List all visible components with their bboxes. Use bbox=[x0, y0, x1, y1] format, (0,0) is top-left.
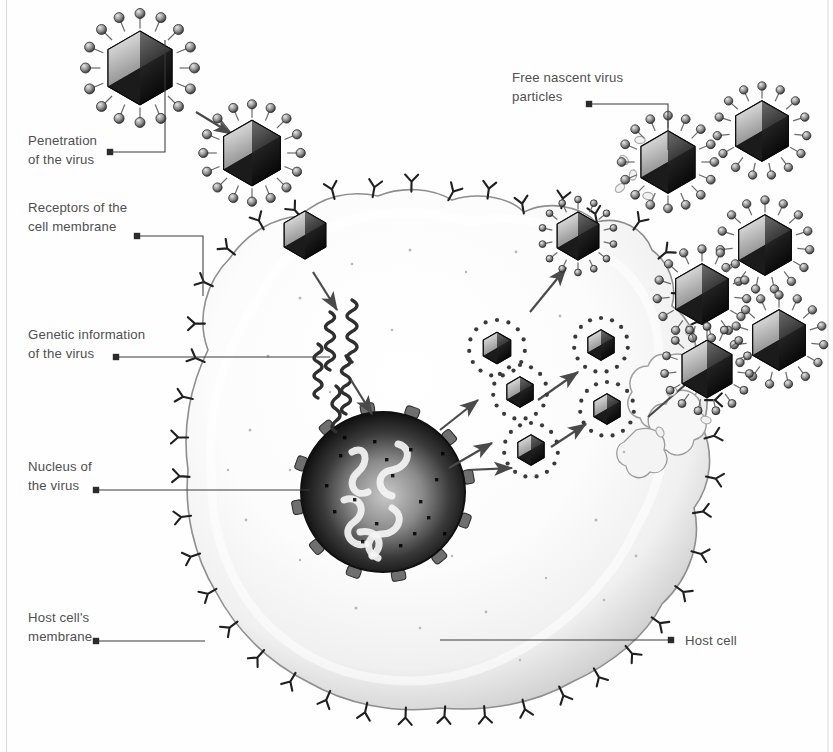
spike-knob bbox=[156, 13, 166, 23]
spike-knob bbox=[535, 474, 539, 478]
label-line-1: Genetic information bbox=[28, 327, 145, 342]
spike-knob bbox=[706, 140, 715, 149]
spike-knob bbox=[266, 193, 275, 202]
label-line-1: Penetration bbox=[28, 133, 97, 148]
spike-knob bbox=[671, 337, 679, 345]
virion-incoming-2 bbox=[199, 100, 306, 207]
spike-knob bbox=[174, 25, 184, 35]
spike-knob bbox=[731, 163, 739, 171]
spike-knob bbox=[135, 9, 145, 19]
spike-knob bbox=[506, 320, 510, 324]
label-line-2: the virus bbox=[28, 478, 79, 493]
spike-knob bbox=[664, 204, 673, 213]
spike-knob bbox=[696, 125, 705, 134]
spike-knob bbox=[593, 369, 597, 373]
spike-knob bbox=[489, 373, 493, 377]
spike-knob bbox=[185, 84, 195, 94]
spike-knob bbox=[97, 25, 107, 35]
spike-knob bbox=[605, 369, 609, 373]
leader-dot bbox=[113, 354, 119, 360]
spike-knob bbox=[615, 365, 619, 369]
spike-knob bbox=[621, 429, 625, 433]
spike-knob bbox=[666, 386, 674, 394]
spike-knob bbox=[671, 326, 679, 334]
spike-knob bbox=[546, 255, 553, 262]
spike-knob bbox=[740, 86, 748, 94]
spike-knob bbox=[512, 416, 516, 420]
spike-knob bbox=[621, 140, 630, 149]
spike-knob bbox=[578, 410, 582, 414]
spike-knob bbox=[611, 433, 615, 437]
spike-knob bbox=[247, 100, 256, 109]
spike-knob bbox=[491, 393, 495, 397]
nucleus-pore bbox=[339, 454, 342, 457]
spike-knob bbox=[696, 190, 705, 199]
spike-knob bbox=[492, 382, 496, 386]
spike-knob bbox=[663, 352, 671, 360]
spike-knob bbox=[495, 403, 499, 407]
spike-knob bbox=[522, 337, 526, 341]
label-line-2: particles bbox=[512, 89, 563, 104]
spike-knob bbox=[572, 346, 576, 350]
debris-particle bbox=[642, 192, 653, 201]
spike-knob bbox=[575, 269, 582, 276]
spike-knob bbox=[678, 400, 686, 408]
spike-knob bbox=[202, 130, 211, 139]
label-line-1: Host cell's bbox=[28, 610, 90, 625]
spike-knob bbox=[579, 399, 583, 403]
spike-knob bbox=[735, 337, 743, 345]
spike-knob bbox=[719, 149, 727, 157]
spike-knob bbox=[534, 412, 538, 416]
spike-knob bbox=[229, 103, 238, 112]
label-line-1: Host cell bbox=[685, 633, 737, 648]
spike-knob bbox=[724, 97, 732, 105]
spike-knob bbox=[744, 352, 752, 360]
spike-knob bbox=[590, 265, 597, 272]
nucleus-pore bbox=[413, 532, 416, 535]
spike-knob bbox=[471, 360, 475, 364]
spike-knob bbox=[801, 372, 809, 380]
nucleus-pore bbox=[375, 522, 378, 525]
spike-knob bbox=[718, 227, 726, 235]
spike-knob bbox=[190, 63, 200, 73]
spike-knob bbox=[617, 158, 626, 167]
spike-knob bbox=[502, 412, 506, 416]
spike-knob bbox=[800, 263, 808, 271]
spike-knob bbox=[803, 132, 811, 140]
spike-knob bbox=[575, 196, 582, 203]
spike-knob bbox=[681, 200, 690, 209]
spike-knob bbox=[622, 356, 626, 360]
spike-knob bbox=[728, 400, 736, 408]
label-line-1: Receptors of the bbox=[28, 200, 127, 215]
spike-knob bbox=[296, 148, 305, 157]
virion-released-3 bbox=[716, 196, 814, 293]
spike-knob bbox=[784, 163, 792, 171]
spike-knob bbox=[282, 183, 291, 192]
spike-knob bbox=[686, 326, 694, 334]
spike-knob bbox=[603, 210, 610, 217]
spike-knob bbox=[156, 113, 166, 123]
spike-knob bbox=[594, 382, 598, 386]
spike-knob bbox=[619, 325, 623, 329]
spike-knob bbox=[743, 200, 751, 208]
spike-knob bbox=[599, 433, 603, 437]
spike-knob bbox=[266, 103, 275, 112]
spike-knob bbox=[247, 197, 256, 206]
nucleus-pore bbox=[343, 436, 346, 439]
spike-knob bbox=[806, 246, 814, 254]
spike-knob bbox=[503, 440, 507, 444]
spike-knob bbox=[775, 291, 783, 299]
spike-knob bbox=[583, 365, 587, 369]
spike-knob bbox=[202, 167, 211, 176]
spike-knob bbox=[539, 241, 546, 248]
spike-knob bbox=[585, 389, 589, 393]
spike-knob bbox=[135, 118, 145, 128]
spike-knob bbox=[509, 430, 513, 434]
spike-knob bbox=[541, 403, 545, 407]
spike-knob bbox=[589, 429, 593, 433]
spike-knob bbox=[502, 451, 506, 455]
spike-knob bbox=[801, 113, 809, 121]
spike-knob bbox=[710, 158, 719, 167]
spike-knob bbox=[579, 325, 583, 329]
spike-knob bbox=[741, 306, 749, 314]
